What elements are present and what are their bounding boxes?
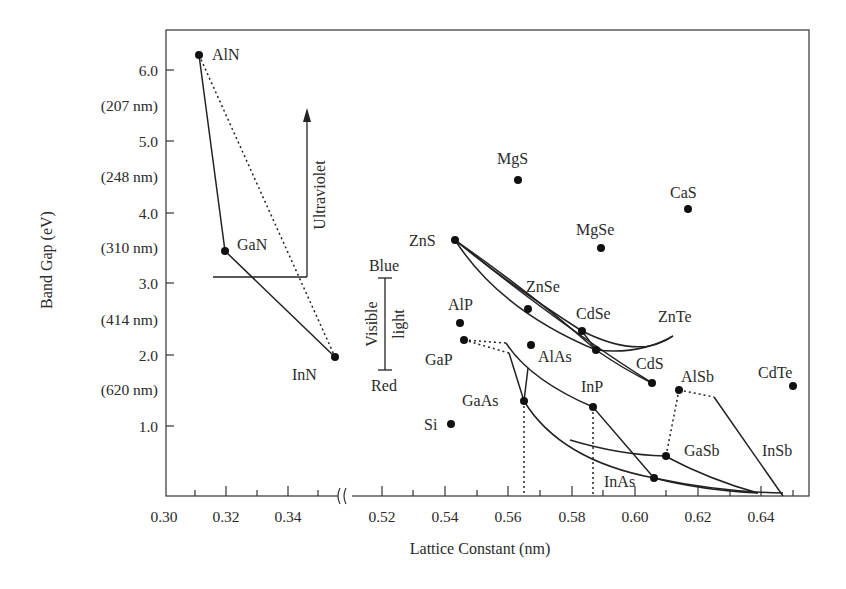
svg-text:GaAs: GaAs	[462, 392, 498, 409]
svg-text:InP: InP	[581, 378, 603, 395]
svg-text:ZnSe: ZnSe	[526, 278, 560, 295]
svg-text:AlN: AlN	[212, 46, 240, 63]
svg-text:InAs: InAs	[604, 473, 635, 490]
svg-text:0.60: 0.60	[621, 508, 648, 525]
svg-text:GaN: GaN	[237, 236, 268, 253]
compound-labels: AlN GaN InN MgS CaS MgSe ZnS ZnSe CdSe Z…	[212, 46, 792, 490]
svg-text:0.34: 0.34	[274, 508, 301, 525]
svg-text:AlSb: AlSb	[681, 368, 714, 385]
band-gap-chart: 6.0 (207 nm) 5.0 (248 nm) 4.0 (310 nm) 3…	[0, 0, 846, 589]
svg-text:AlAs: AlAs	[538, 348, 572, 365]
indirect-gap-curves	[464, 340, 714, 496]
svg-text:0.54: 0.54	[431, 508, 458, 525]
svg-text:(248 nm): (248 nm)	[101, 168, 158, 186]
svg-text:ZnTe: ZnTe	[658, 308, 692, 325]
svg-text:(414 nm): (414 nm)	[101, 311, 158, 329]
light-label: light	[390, 309, 408, 339]
svg-text:GaP: GaP	[425, 351, 453, 368]
svg-text:CdTe: CdTe	[758, 364, 792, 381]
y-tick-labels: 6.0 (207 nm) 5.0 (248 nm) 4.0 (310 nm) 3…	[101, 62, 159, 435]
x-tick-labels: 0.30 0.32 0.34 0.52 0.54 0.56 0.58 0.60 …	[150, 508, 774, 525]
svg-text:0.64: 0.64	[747, 508, 774, 525]
svg-text:InN: InN	[292, 366, 317, 383]
svg-text:4.0: 4.0	[139, 205, 159, 222]
svg-text:5.0: 5.0	[139, 133, 159, 150]
svg-text:(310 nm): (310 nm)	[101, 239, 158, 257]
svg-text:0.56: 0.56	[494, 508, 521, 525]
svg-text:6.0: 6.0	[139, 62, 159, 79]
svg-text:GaSb: GaSb	[684, 442, 720, 459]
x-axis-title: Lattice Constant (nm)	[410, 540, 550, 558]
y-ticks	[166, 70, 174, 426]
svg-text:MgSe: MgSe	[576, 221, 614, 239]
svg-text:3.0: 3.0	[139, 275, 159, 292]
visible-label: Visible	[363, 301, 380, 346]
svg-text:(207 nm): (207 nm)	[101, 97, 158, 115]
data-points	[195, 51, 797, 482]
svg-text:0.52: 0.52	[368, 508, 395, 525]
svg-text:CdS: CdS	[636, 355, 664, 372]
red-label: Red	[371, 377, 397, 394]
svg-text:0.62: 0.62	[684, 508, 711, 525]
svg-text:0.32: 0.32	[212, 508, 239, 525]
svg-text:0.30: 0.30	[150, 508, 177, 525]
svg-text:MgS: MgS	[497, 150, 528, 168]
svg-text:(620 nm): (620 nm)	[101, 381, 158, 399]
svg-text:CdSe: CdSe	[576, 305, 611, 322]
arrow-up-icon	[303, 108, 311, 122]
svg-text:CaS: CaS	[670, 184, 697, 201]
svg-text:ZnS: ZnS	[409, 232, 436, 249]
svg-text:2.0: 2.0	[139, 347, 159, 364]
blue-label: Blue	[369, 257, 399, 274]
ultraviolet-label: Ultraviolet	[311, 160, 328, 230]
svg-text:1.0: 1.0	[139, 418, 159, 435]
svg-text:Si: Si	[424, 416, 438, 433]
svg-text:InSb: InSb	[762, 442, 792, 459]
y-axis-title: Band Gap (eV)	[38, 211, 56, 309]
svg-text:AlP: AlP	[448, 296, 473, 313]
svg-text:0.58: 0.58	[558, 508, 585, 525]
